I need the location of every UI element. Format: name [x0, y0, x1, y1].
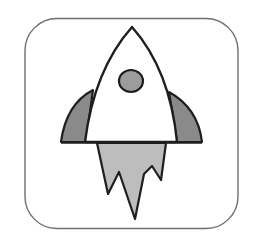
window-icon — [119, 70, 143, 92]
rocket-app-icon — [0, 0, 254, 245]
